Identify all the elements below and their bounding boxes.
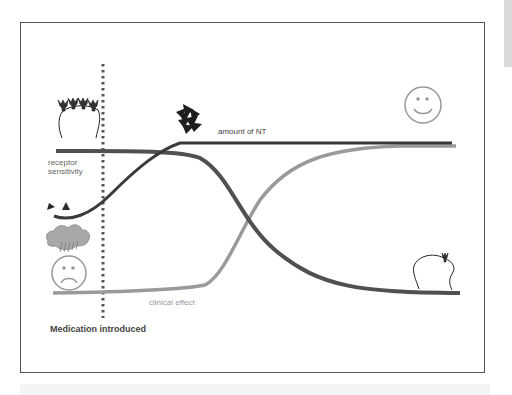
medication-introduced-label: Medication introduced [50, 325, 146, 334]
clinical-effect-curve [53, 146, 456, 293]
neurotransmitter-pair-icon [47, 202, 70, 210]
receptor-sensitivity-label-line2: sensitivity [48, 167, 83, 176]
receptor-sensitivity-label-line1: receptor [48, 158, 83, 167]
receptor-cluster-icon [58, 98, 100, 138]
single-receptor-icon [413, 253, 453, 290]
nt-amount-label: amount of NT [218, 127, 266, 136]
neurotransmitter-cluster-icon [176, 104, 202, 134]
receptor-sensitivity-curve [56, 151, 460, 293]
rain-cloud-icon [46, 225, 89, 252]
clinical-effect-label: clinical effect [149, 298, 195, 307]
receptor-sensitivity-label: receptor sensitivity [48, 158, 83, 176]
sad-face-icon [52, 256, 86, 290]
diagram-canvas [0, 0, 512, 395]
happy-face-icon [405, 87, 441, 123]
nt-amount-curve [54, 143, 452, 218]
